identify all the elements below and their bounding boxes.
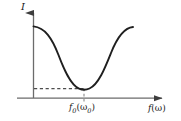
y-axis-label: I bbox=[21, 2, 25, 12]
tick-label-omega: (ω bbox=[76, 102, 87, 112]
intensity-curve bbox=[34, 26, 134, 89]
tick-label-close-paren: ) bbox=[91, 102, 95, 112]
x-axis-label: f(ω) bbox=[148, 104, 166, 113]
x-axis-tick-label-minimum: f0(ω0) bbox=[69, 103, 95, 114]
figure-container: I f(ω) f0(ω0) bbox=[0, 0, 181, 121]
x-axis-label-omega: (ω) bbox=[151, 103, 165, 113]
